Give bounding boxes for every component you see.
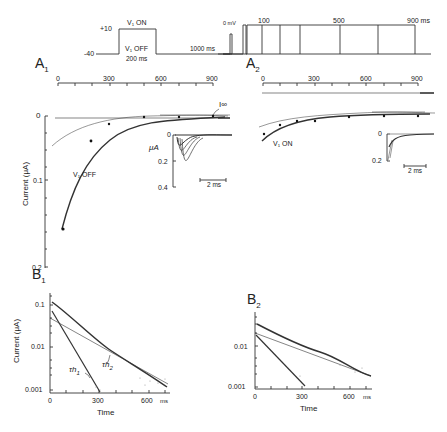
a1-ytick-0: 0 (36, 112, 40, 120)
inset1-ytick-0: 0 (167, 131, 171, 138)
protocol-tick-500: 500 (333, 17, 345, 24)
a2-data-points (263, 115, 419, 135)
a1-xtick-300: 300 (103, 75, 115, 82)
protocol-step-duration: 200 ms (126, 56, 147, 63)
inset2-scale: 2 ms (408, 168, 422, 175)
b1-xtick-600: 600 (141, 397, 153, 404)
a1-fit-thin (52, 115, 228, 146)
b2-total-curve (257, 324, 371, 376)
panel-sub: 2 (255, 65, 259, 74)
inset2-ytick-0.2: 0.2 (372, 157, 382, 164)
protocol-tick-100: 100 (258, 17, 270, 24)
a1-xtick-0: 0 (56, 75, 60, 82)
protocol-level-low: -40 (84, 50, 94, 57)
a2-xtick-900: 900 (411, 75, 423, 82)
protocol-on-label: V₁ ON (127, 19, 146, 26)
panel-letter: A (35, 55, 44, 71)
a1-ytick-0.1: 0.1 (33, 177, 43, 184)
panel-letter: B (247, 291, 256, 307)
a1-ytick-0.2: 0.2 (32, 264, 42, 271)
inset1-ylabel: μA (149, 144, 159, 152)
panel-label-a2: A2 (246, 56, 260, 74)
b1-axes (50, 293, 170, 393)
a2-fit-thick (262, 114, 430, 141)
b1-ylabel: Current (μA) (13, 311, 21, 371)
protocol-level-high: +10 (100, 25, 112, 32)
a1-top-axis (58, 83, 213, 86)
a2-xtick-300: 300 (308, 75, 320, 82)
b1-xtick-0: 0 (48, 397, 52, 404)
figure-canvas (0, 0, 447, 432)
b1-tau1-label: τh1 (69, 366, 80, 376)
b2-ytick-0.001: 0.001 (228, 383, 246, 390)
tau-sub: 1 (76, 370, 79, 376)
b1-ytick-0.01: 0.01 (31, 343, 45, 350)
b2-xtick-0: 0 (253, 393, 257, 400)
a2-condition-label: V₁ ON (273, 140, 292, 147)
b1-tau2-label: τh2 (102, 361, 113, 371)
panel-sub: 1 (41, 276, 45, 285)
a2-top-axis (263, 83, 418, 86)
b1-xtick-300: 300 (92, 397, 104, 404)
protocol-off-label: V₁ OFF (125, 45, 148, 52)
tau-sub: 2 (109, 365, 112, 371)
a1-y-axis (45, 116, 48, 268)
b2-slow-line (255, 333, 371, 376)
a2-xtick-600: 600 (360, 75, 372, 82)
inset2-ytick-0: 0 (378, 130, 382, 137)
b2-ytick-0.01: 0.01 (234, 343, 248, 350)
b1-xlabel: Time (97, 409, 114, 417)
inset1-scale: 2 ms (207, 182, 221, 189)
panel-sub: 1 (44, 65, 48, 74)
protocol-left-trace (96, 29, 247, 54)
a2-xtick-0: 0 (261, 75, 265, 82)
protocol-zero-mv: 0 mV (223, 21, 236, 27)
a1-condition-label: V₁ OFF (73, 171, 96, 178)
panel-letter: A (246, 55, 255, 71)
b1-ytick-0.1: 0.1 (35, 301, 45, 308)
a1-inset (173, 135, 232, 187)
protocol-tick-900: 900 ms (407, 17, 430, 24)
b1-x-unit: ms (160, 398, 168, 404)
a1-xtick-900: 900 (206, 75, 218, 82)
b1-tau2-line (50, 318, 168, 384)
b2-x-unit: ms (363, 394, 371, 400)
panel-label-b2: B2 (247, 292, 261, 310)
b2-xlabel: Time (300, 405, 317, 413)
inset1-ytick-0.2: 0.2 (158, 158, 168, 165)
inset1-ytick-0.4: 0.4 (158, 184, 168, 191)
a1-ylabel: Current (μA) (22, 154, 30, 214)
protocol-interval: 1000 ms (190, 46, 215, 53)
a1-iinf-label: I∞ (219, 101, 227, 109)
b2-xtick-600: 600 (343, 393, 355, 400)
panel-sub: 2 (256, 301, 260, 310)
panel-label-a1: A1 (35, 56, 49, 74)
a1-xtick-600: 600 (155, 75, 167, 82)
protocol-right-trace (218, 25, 431, 54)
b2-xtick-300: 300 (296, 393, 308, 400)
a1-iinf-pointer (213, 109, 219, 115)
b1-ytick-0.001: 0.001 (25, 386, 43, 393)
a2-inset (387, 134, 434, 168)
